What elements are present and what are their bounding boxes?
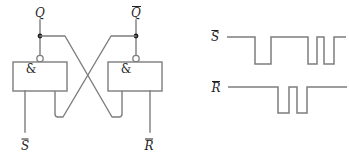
gate2-and-symbol: & — [121, 62, 132, 76]
rbar-waveform — [228, 87, 347, 113]
sr-latch-diagram: Q Q & & S R S R — [0, 0, 349, 165]
sbar-input-label: S — [21, 139, 29, 153]
rbar-waveform-label: R — [210, 81, 220, 95]
gate1-and-symbol: & — [26, 62, 37, 76]
qbar-output-label: Q — [131, 6, 141, 20]
nand-gate-1 — [13, 62, 67, 91]
sbar-waveform — [227, 37, 346, 64]
nand-gate-2 — [108, 62, 162, 91]
rbar-input-label: R — [143, 139, 153, 153]
gate2-output-bubble — [133, 55, 139, 61]
sr-latch-figure: Q Q & & S R S R — [0, 0, 349, 165]
q-output-label: Q — [35, 6, 45, 20]
gate1-output-bubble — [37, 55, 43, 61]
sbar-waveform-label: S — [211, 30, 219, 44]
